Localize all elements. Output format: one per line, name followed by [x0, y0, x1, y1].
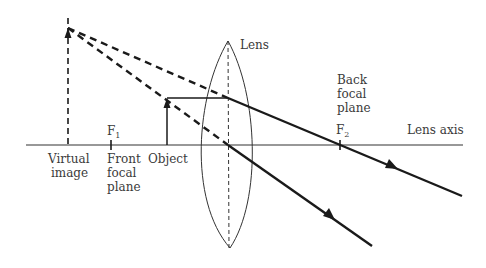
back-focal-plane-label-2: focal	[337, 87, 367, 101]
lens-label: Lens	[240, 38, 269, 52]
back-focal-plane-label-1: Back	[337, 73, 368, 87]
back-focal-plane-label-3: plane	[337, 101, 371, 115]
f1-label: F1	[107, 124, 120, 140]
lens-axis-label: Lens axis	[407, 123, 464, 137]
front-focal-plane-label-3: plane	[107, 180, 141, 194]
central-ray	[228, 145, 372, 246]
front-focal-plane-label-2: focal	[107, 166, 137, 180]
central-ray-arrowhead	[323, 208, 335, 220]
virtual-image-label-1: Virtual	[47, 152, 90, 166]
refracted-ray-focal-arrowhead	[385, 159, 398, 169]
lens-diagram: Lens Back focal plane F2 Lens axis F1 Vi…	[0, 0, 486, 268]
object-label: Object	[148, 152, 188, 166]
f2-label: F2	[336, 123, 349, 139]
front-focal-plane-label-1: Front	[107, 152, 141, 166]
virtual-image-label-2: image	[51, 166, 88, 180]
